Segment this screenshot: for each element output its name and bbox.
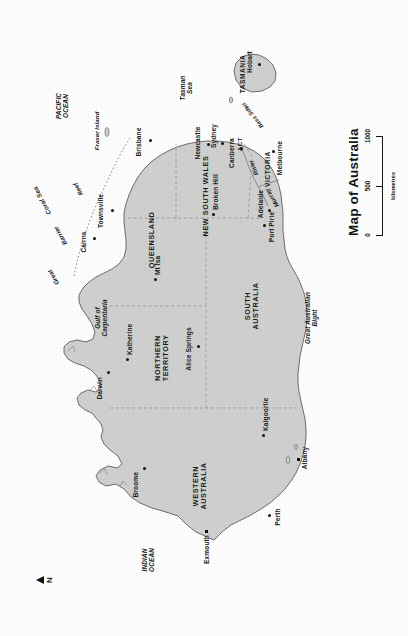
city-label-canberra: Canberra xyxy=(228,138,235,168)
city-label-cairns: Cairns xyxy=(80,231,87,252)
city-label-sydney: Sydney xyxy=(210,124,217,148)
city-label-brisbane: Brisbane xyxy=(135,127,142,156)
city-label-adelaide: Adelaide xyxy=(257,190,264,218)
scale-tick-0 xyxy=(376,235,383,236)
scale-label-1000: 1000 xyxy=(364,129,371,143)
city-dot-exmouth xyxy=(205,530,208,533)
north-arrow-icon xyxy=(36,576,44,584)
city-label-alice-springs: Alice Springs xyxy=(185,327,192,370)
state-label-western-australia: WESTERN AUSTRALIA xyxy=(192,462,208,509)
state-label-northern-territory: NORTHERN TERRITORY xyxy=(154,335,170,382)
water-label-gulf-of-carpentaria: Gulf of Carpentaria xyxy=(94,299,108,336)
city-label-hobart: Hobart xyxy=(246,51,253,73)
city-label-katherine: Katherine xyxy=(126,324,133,355)
state-label-victoria: VICTORIA xyxy=(264,151,271,187)
state-label-new-south-wales: NEW SOUTH WALES xyxy=(202,156,210,237)
city-label-mt-isa: Mt Isa xyxy=(154,256,161,275)
compass-north-label: N xyxy=(45,577,54,583)
city-label-melbourne: Melbourne xyxy=(276,141,283,175)
water-label-indian-ocean: INDIAN OCEAN xyxy=(141,548,155,572)
scale-units-label: kilometres xyxy=(390,172,396,200)
scale-label-0: 0 xyxy=(364,233,371,237)
scale-tick-500 xyxy=(376,186,383,187)
scale-label-500: 500 xyxy=(364,181,371,192)
city-label-newcastle: Newcastle xyxy=(194,126,201,159)
city-label-darwin: Darwin xyxy=(96,377,103,400)
water-label-great-australian-bight: Great Australian Bight xyxy=(304,292,318,344)
scale-tick-1000 xyxy=(376,136,383,137)
city-dot-albany xyxy=(297,458,300,461)
city-label-exmouth: Exmouth xyxy=(203,535,210,564)
city-label-perth: Perth xyxy=(274,508,281,525)
water-label-tasman-sea: Tasman Sea xyxy=(179,76,193,101)
water-label-pacific-ocean: PACIFIC OCEAN xyxy=(55,93,69,119)
feature-label-fraser-island: Fraser Island xyxy=(94,112,101,151)
city-label-townsville: Townsville xyxy=(97,194,104,228)
city-label-broome: Broome xyxy=(132,472,139,498)
city-label-albany: Albany xyxy=(301,447,308,470)
city-label-port-pirie: Port Pirie xyxy=(268,212,275,242)
title-and-scale-block: Map of Australia 0 500 1000 kilometres xyxy=(346,128,389,236)
state-label-south-australia: SOUTH AUSTRALIA xyxy=(244,282,260,329)
compass-rose: N xyxy=(36,576,54,584)
scale-bar: 0 500 1000 kilometres xyxy=(373,134,389,236)
page-title: Map of Australia xyxy=(346,128,361,236)
map-page: WESTERN AUSTRALIA NORTHERN TERRITORY SOU… xyxy=(0,0,408,636)
rotated-map-sheet: WESTERN AUSTRALIA NORTHERN TERRITORY SOU… xyxy=(0,0,408,636)
city-label-kalgoorlie: Kalgoorlie xyxy=(262,398,269,431)
city-label-broken-hill: Broken Hill xyxy=(212,174,219,210)
